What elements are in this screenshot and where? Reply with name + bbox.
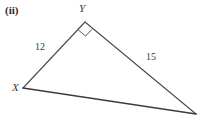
triangle-side-xy (23, 22, 85, 88)
vertex-label-y: Y (79, 3, 85, 14)
figure-container: (ii) Y X 12 15 (0, 0, 200, 123)
part-label: (ii) (5, 5, 18, 16)
triangle-diagram (0, 0, 200, 123)
vertex-label-x: X (12, 82, 19, 93)
side-length-label-yz: 15 (146, 52, 156, 62)
side-length-label-xy: 12 (35, 42, 45, 52)
right-angle-marker-y (78, 29, 92, 36)
